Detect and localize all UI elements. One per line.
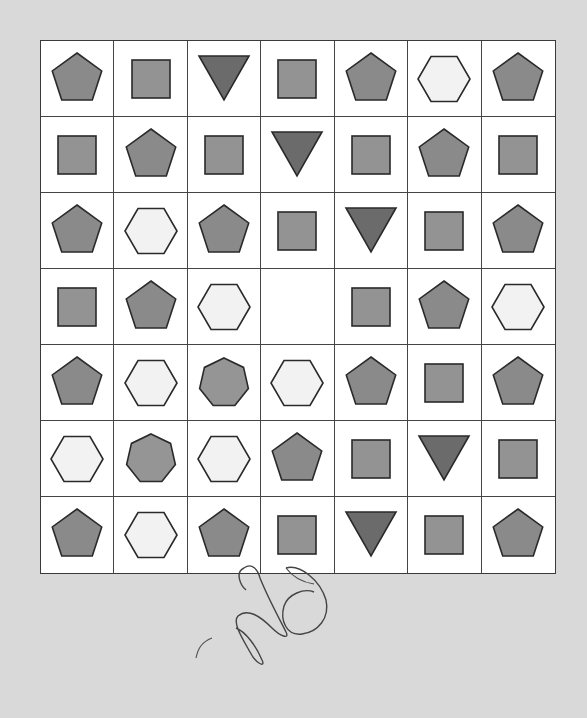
square-icon — [47, 125, 107, 185]
triangle-icon — [194, 49, 254, 109]
square-icon — [414, 201, 474, 261]
pentagon-icon — [341, 353, 401, 413]
grid-cell[interactable] — [408, 41, 481, 117]
empty-cell[interactable] — [261, 269, 334, 345]
grid-cell[interactable] — [482, 117, 555, 193]
hexagon-icon — [488, 277, 548, 337]
pentagon-icon — [488, 353, 548, 413]
pentagon-icon — [267, 429, 327, 489]
grid-cell[interactable] — [335, 269, 408, 345]
grid-cell[interactable] — [482, 421, 555, 497]
hexagon-icon — [121, 505, 181, 565]
grid-cell[interactable] — [188, 345, 261, 421]
grid-cell[interactable] — [482, 345, 555, 421]
grid-cell[interactable] — [408, 269, 481, 345]
grid-cell[interactable] — [114, 497, 187, 573]
grid-cell[interactable] — [335, 497, 408, 573]
grid-cell[interactable] — [335, 193, 408, 269]
pentagon-icon — [121, 125, 181, 185]
heptagon-icon — [121, 429, 181, 489]
grid-cell[interactable] — [408, 497, 481, 573]
grid-cell[interactable] — [114, 193, 187, 269]
puzzle-grid — [40, 40, 556, 574]
grid-cell[interactable] — [188, 117, 261, 193]
square-icon — [121, 49, 181, 109]
grid-cell[interactable] — [188, 193, 261, 269]
grid-cell[interactable] — [408, 193, 481, 269]
grid-cell[interactable] — [188, 269, 261, 345]
grid-cell[interactable] — [188, 421, 261, 497]
square-icon — [267, 505, 327, 565]
grid-cell[interactable] — [335, 421, 408, 497]
grid-cell[interactable] — [408, 117, 481, 193]
grid-cell[interactable] — [41, 117, 114, 193]
hexagon-icon — [47, 429, 107, 489]
grid-cell[interactable] — [41, 269, 114, 345]
grid-cell[interactable] — [261, 41, 334, 117]
grid-cell[interactable] — [114, 117, 187, 193]
square-icon — [341, 125, 401, 185]
pentagon-icon — [414, 277, 474, 337]
square-icon — [488, 125, 548, 185]
square-icon — [414, 353, 474, 413]
square-icon — [194, 125, 254, 185]
grid-cell[interactable] — [41, 41, 114, 117]
grid-cell[interactable] — [41, 421, 114, 497]
grid-cell[interactable] — [114, 421, 187, 497]
square-icon — [267, 49, 327, 109]
square-icon — [341, 277, 401, 337]
pentagon-icon — [47, 49, 107, 109]
triangle-icon — [341, 201, 401, 261]
pentagon-icon — [414, 125, 474, 185]
hexagon-icon — [121, 201, 181, 261]
hexagon-icon — [194, 277, 254, 337]
handwritten-scribble — [180, 560, 340, 680]
pentagon-icon — [194, 201, 254, 261]
grid-cell[interactable] — [114, 269, 187, 345]
hexagon-icon — [267, 353, 327, 413]
grid-cell[interactable] — [261, 193, 334, 269]
pentagon-icon — [488, 201, 548, 261]
pentagon-icon — [194, 505, 254, 565]
grid-cell[interactable] — [408, 345, 481, 421]
triangle-icon — [414, 429, 474, 489]
grid-cell[interactable] — [482, 193, 555, 269]
square-icon — [488, 429, 548, 489]
grid-cell[interactable] — [335, 345, 408, 421]
pentagon-icon — [121, 277, 181, 337]
grid-cell[interactable] — [482, 41, 555, 117]
grid-cell[interactable] — [188, 41, 261, 117]
grid-cell[interactable] — [408, 421, 481, 497]
grid-cell[interactable] — [261, 421, 334, 497]
pentagon-icon — [47, 353, 107, 413]
square-icon — [47, 277, 107, 337]
hexagon-icon — [194, 429, 254, 489]
pentagon-icon — [341, 49, 401, 109]
square-icon — [341, 429, 401, 489]
triangle-icon — [341, 505, 401, 565]
grid-cell[interactable] — [261, 497, 334, 573]
grid-cell[interactable] — [41, 345, 114, 421]
square-icon — [414, 505, 474, 565]
grid-cell[interactable] — [335, 41, 408, 117]
hexagon-icon — [414, 49, 474, 109]
grid-cell[interactable] — [335, 117, 408, 193]
pentagon-icon — [47, 505, 107, 565]
grid-cell[interactable] — [482, 497, 555, 573]
grid-cell[interactable] — [114, 41, 187, 117]
grid-cell[interactable] — [261, 117, 334, 193]
grid-cell[interactable] — [261, 345, 334, 421]
triangle-icon — [267, 125, 327, 185]
heptagon-icon — [194, 353, 254, 413]
grid-cell[interactable] — [41, 497, 114, 573]
square-icon — [267, 201, 327, 261]
grid-cell[interactable] — [41, 193, 114, 269]
grid-cell[interactable] — [114, 345, 187, 421]
pentagon-icon — [488, 505, 548, 565]
grid-cell[interactable] — [188, 497, 261, 573]
pentagon-icon — [47, 201, 107, 261]
hexagon-icon — [121, 353, 181, 413]
pentagon-icon — [488, 49, 548, 109]
grid-cell[interactable] — [482, 269, 555, 345]
